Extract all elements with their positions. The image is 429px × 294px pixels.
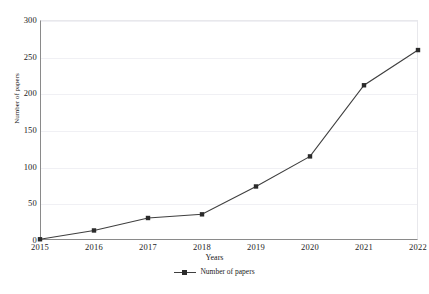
- line-chart: 050100150200250300 Number of papers 2015…: [0, 0, 429, 294]
- series-layer: [0, 0, 429, 294]
- series-markers: [38, 48, 420, 242]
- data-point-marker: [308, 154, 312, 158]
- data-point-marker: [416, 48, 420, 52]
- data-point-marker: [146, 216, 150, 220]
- data-point-marker: [92, 228, 96, 232]
- legend-marker-icon: [174, 268, 196, 276]
- data-point-marker: [38, 237, 42, 241]
- data-point-marker: [362, 83, 366, 87]
- legend: Number of papers: [0, 268, 429, 276]
- data-point-marker: [254, 184, 258, 188]
- data-point-marker: [200, 212, 204, 216]
- series-line-number-of-papers: [40, 50, 418, 239]
- legend-label: Number of papers: [200, 268, 254, 276]
